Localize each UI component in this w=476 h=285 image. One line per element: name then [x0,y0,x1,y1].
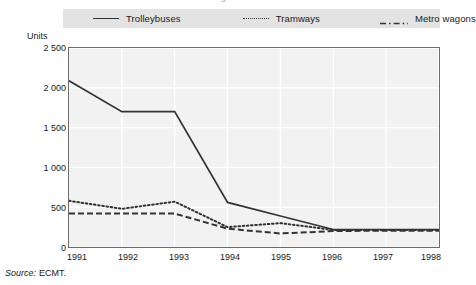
cropped-title-text: Figure [0,0,453,2]
x-tick-1991: 1991 [57,252,97,262]
x-tick-1996: 1996 [312,252,352,262]
solid-line-swatch [93,14,119,23]
series-line-tramways [69,201,439,230]
y-axis-tick-labels: 2 500 2 000 1 500 1 000 500 0 [0,0,66,285]
legend-item-trolleybuses[interactable]: Trolleybuses [93,13,181,24]
legend-label-trolleybuses: Trolleybuses [126,13,181,24]
y-tick-500: 500 [6,203,66,213]
series-line-metro-wagons [69,214,439,234]
dash-dot-line-swatch [380,14,408,23]
chart-legend: Trolleybuses Tramways Metro wagons [63,9,440,28]
x-tick-1998: 1998 [411,252,451,262]
y-tick-1500: 1 500 [6,123,66,133]
x-tick-1995: 1995 [261,252,301,262]
x-tick-1994: 1994 [210,252,250,262]
x-tick-1992: 1992 [108,252,148,262]
y-tick-1000: 1 000 [6,163,66,173]
y-tick-2500: 2 500 [6,43,66,53]
source-label: Source: [5,268,36,278]
legend-label-tramways: Tramways [276,13,320,24]
legend-label-metro-wagons: Metro wagons [415,13,476,24]
legend-item-metro-wagons[interactable]: Metro wagons [380,13,476,24]
data-series [69,81,439,234]
gridlines [69,48,439,247]
x-tick-1997: 1997 [363,252,403,262]
chart-plot-area [68,47,440,248]
dash-dot-glyph [380,19,408,28]
line-chart-svg [69,48,439,247]
source-value: ECMT. [39,268,66,278]
legend-item-tramways[interactable]: Tramways [243,13,320,24]
y-tick-2000: 2 000 [6,83,66,93]
cropped-title-sliver: Figure [0,0,453,5]
chart-plot-inner [69,48,439,247]
source-note: Source:ECMT. [5,268,66,278]
dotted-line-swatch [243,14,269,23]
x-tick-1993: 1993 [159,252,199,262]
